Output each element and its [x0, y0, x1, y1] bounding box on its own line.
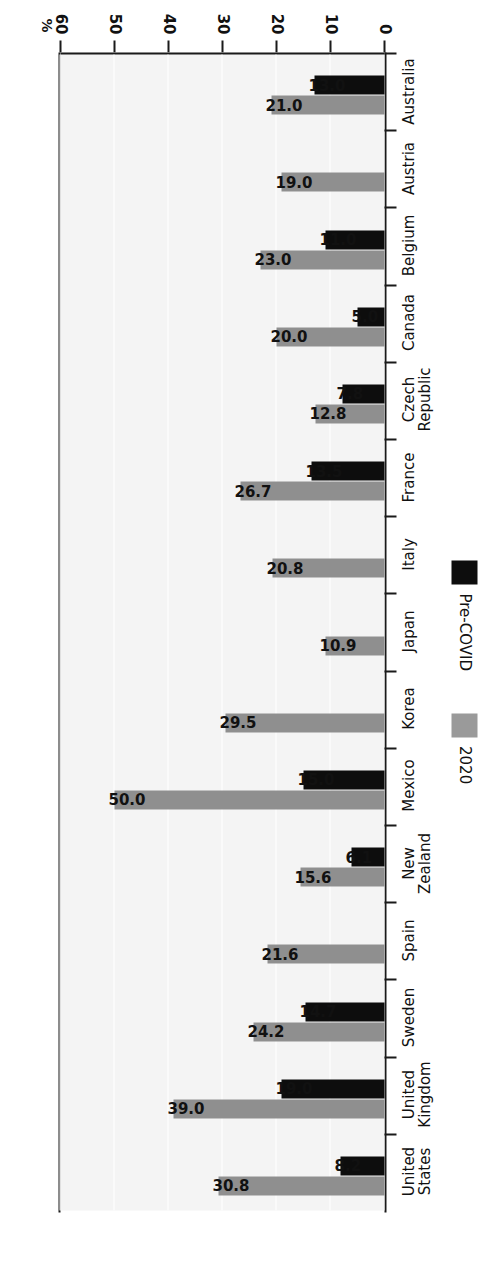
bar-value-label: 23.0 [254, 250, 291, 268]
category-label-canada: Canada [400, 284, 416, 361]
chart-legend: Pre-COVID 2020 [451, 560, 477, 784]
category-tick [384, 901, 396, 903]
value-tick-20 [275, 40, 277, 52]
bar-value-label: 29.5 [219, 713, 256, 731]
category-label-spain: Spain [400, 901, 416, 978]
bar-value-label: 13.5 [305, 462, 342, 480]
bar-value-label: 20.0 [270, 327, 307, 345]
bar-value-label: 30.8 [212, 1176, 249, 1194]
bar-value-label: 7.8 [336, 384, 363, 402]
gridline-60 [59, 54, 60, 1210]
value-tick-label-40: 40 [159, 0, 177, 34]
bar-value-label: 10.9 [319, 636, 356, 654]
axis-unit-label: % [38, 18, 54, 32]
gridline-40 [167, 54, 168, 1210]
value-tick-label-0: 0 [375, 0, 393, 34]
category-tick [384, 129, 396, 131]
bar-value-label: 19.0 [275, 1079, 312, 1097]
bar-value-label: 15.0 [297, 770, 334, 788]
category-label-mexico: Mexico [400, 747, 416, 824]
category-tick [384, 361, 396, 363]
bar-value-label: 24.2 [247, 1022, 284, 1040]
value-tick-label-30: 30 [213, 0, 231, 34]
bar-2020-united-kingdom[interactable] [173, 1099, 384, 1118]
bar-value-label: 21.0 [265, 96, 302, 114]
value-tick-0 [383, 40, 385, 52]
legend-swatch-2020 [451, 713, 477, 737]
category-label-korea: Korea [400, 670, 416, 747]
bar-value-label: 12.8 [309, 404, 346, 422]
category-tick [384, 206, 396, 208]
legend-swatch-pre-covid [451, 560, 477, 584]
category-tick [384, 592, 396, 594]
value-tick-label-20: 20 [267, 0, 285, 34]
bar-value-label: 14.7 [299, 1002, 336, 1020]
bar-value-label: 50.0 [108, 790, 145, 808]
category-label-italy: Italy [400, 515, 416, 592]
bar-value-label: 15.6 [294, 868, 331, 886]
bar-value-label: 5.0 [351, 307, 378, 325]
category-label-australia: Australia [400, 52, 416, 129]
category-label-united-states: United States [400, 1133, 432, 1210]
category-tick [384, 670, 396, 672]
category-label-belgium: Belgium [400, 206, 416, 283]
value-tick-40 [167, 40, 169, 52]
bar-value-label: 39.0 [167, 1099, 204, 1117]
bar-value-label: 21.6 [261, 945, 298, 963]
category-label-japan: Japan [400, 592, 416, 669]
value-tick-label-10: 10 [321, 0, 339, 34]
value-tick-60 [59, 40, 61, 52]
category-label-sweden: Sweden [400, 978, 416, 1055]
legend-label-2020: 2020 [455, 746, 473, 784]
category-label-austria: Austria [400, 129, 416, 206]
bar-value-label: 6.1 [345, 848, 372, 866]
bar-value-label: 11.0 [319, 230, 356, 248]
gridline-30 [221, 54, 222, 1210]
category-label-czech-republic: Czech Republic [400, 361, 432, 438]
legend-label-pre-covid: Pre-COVID [455, 593, 473, 671]
rotated-figure-wrapper: 0102030405060 % 13.021.019.011.023.05.02… [0, 0, 499, 1277]
category-tick [384, 1056, 396, 1058]
gridline-50 [113, 54, 114, 1210]
category-tick [384, 978, 396, 980]
category-tick [384, 1133, 396, 1135]
value-tick-label-50: 50 [105, 0, 123, 34]
legend-item-2020[interactable]: 2020 [451, 713, 477, 784]
value-tick-10 [329, 40, 331, 52]
category-tick [384, 438, 396, 440]
bar-value-label: 20.8 [266, 559, 303, 577]
category-tick [384, 824, 396, 826]
category-tick [384, 52, 396, 54]
bar-value-label: 26.7 [234, 482, 271, 500]
value-tick-50 [113, 40, 115, 52]
legend-item-pre-covid[interactable]: Pre-COVID [451, 560, 477, 671]
value-tick-30 [221, 40, 223, 52]
category-tick [384, 515, 396, 517]
category-tick [384, 284, 396, 286]
category-tick [384, 747, 396, 749]
category-label-united-kingdom: United Kingdom [400, 1056, 432, 1133]
category-label-new-zealand: New Zealand [400, 824, 432, 901]
bar-value-label: 8.2 [334, 1156, 361, 1174]
bar-chart-figure: 0102030405060 % 13.021.019.011.023.05.02… [0, 0, 499, 1277]
bar-value-label: 19.0 [275, 173, 312, 191]
bar-value-label: 13.0 [308, 76, 345, 94]
bar-2020-mexico[interactable] [114, 790, 384, 809]
category-label-france: France [400, 438, 416, 515]
